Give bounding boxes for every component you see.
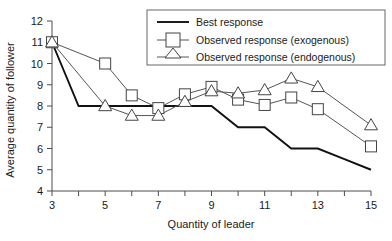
x-tick-label: 7 <box>155 199 161 211</box>
legend-label-observed-exogenous: Observed response (exogenous) <box>196 34 349 46</box>
x-tick-label: 15 <box>365 199 377 211</box>
y-tick-label: 8 <box>37 100 43 112</box>
data-point-square <box>100 58 111 69</box>
legend-label-best-response: Best response <box>196 16 263 28</box>
y-tick-label: 6 <box>37 143 43 155</box>
y-tick-label: 10 <box>31 58 43 70</box>
x-axis-title: Quantity of leader <box>168 218 255 230</box>
chart-container: 456789101112 3579111315 Quantity of lead… <box>0 0 392 241</box>
y-tick-label: 7 <box>37 121 43 133</box>
data-point-square <box>126 90 137 101</box>
x-tick-label: 13 <box>312 199 324 211</box>
y-tick-label: 12 <box>31 15 43 27</box>
x-tick-label: 9 <box>208 199 214 211</box>
data-point-square <box>286 92 297 103</box>
data-point-square <box>366 141 377 152</box>
data-point-square <box>312 104 323 115</box>
y-tick-label: 5 <box>37 164 43 176</box>
square-marker-icon <box>166 33 180 47</box>
x-tick-label: 5 <box>102 199 108 211</box>
chart-legend: Best response Observed response (exogeno… <box>147 10 385 65</box>
line-chart: 456789101112 3579111315 Quantity of lead… <box>0 0 392 241</box>
y-tick-label: 11 <box>32 36 43 48</box>
y-tick-label: 4 <box>37 185 43 197</box>
legend-label-observed-endogenous: Observed response (endogenous) <box>196 51 355 63</box>
x-tick-label: 3 <box>49 199 55 211</box>
data-point-square <box>259 99 270 110</box>
y-tick-label: 9 <box>37 79 43 91</box>
y-axis-title: Average quantity of follower <box>4 42 16 178</box>
x-tick-label: 11 <box>259 199 270 211</box>
